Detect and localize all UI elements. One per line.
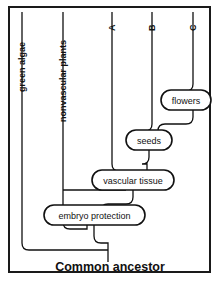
taxon-label-nonvascular-plants: nonvascular plants xyxy=(58,40,68,122)
taxon-label-c: C xyxy=(188,24,198,31)
node-vascular-tissue-label: vascular tissue xyxy=(103,176,163,186)
taxon-label-b: B xyxy=(147,24,157,31)
node-seeds-label: seeds xyxy=(137,136,162,146)
node-flowers-label: flowers xyxy=(172,96,201,106)
node-embryo-protection-label: embryo protection xyxy=(58,211,130,221)
node-flowers[interactable]: flowers xyxy=(161,90,211,110)
root-label: Common ancestor xyxy=(55,260,165,274)
branch-embryo-to-root xyxy=(94,225,108,262)
node-vascular-tissue[interactable]: vascular tissue xyxy=(92,170,174,190)
node-embryo-protection[interactable]: embryo protection xyxy=(44,205,145,225)
branch-taxon-a xyxy=(112,12,126,180)
taxon-label-green-algae: green algae xyxy=(17,42,27,92)
cladogram-diagram: flowers seeds vascular tissue embryo pro… xyxy=(0,0,222,285)
taxon-label-a: A xyxy=(107,24,117,31)
node-seeds[interactable]: seeds xyxy=(126,130,172,150)
